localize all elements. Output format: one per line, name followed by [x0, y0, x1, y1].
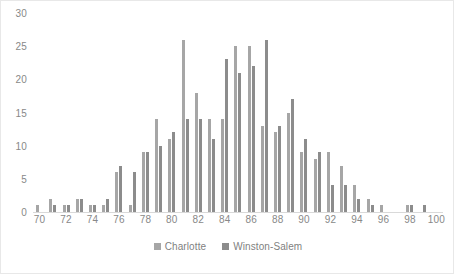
- bar-group: [33, 13, 46, 212]
- x-axis-tick-label: 78: [140, 214, 152, 225]
- bar: [327, 152, 330, 212]
- x-axis-tick-label: 82: [193, 214, 205, 225]
- legend-item[interactable]: Charlotte: [154, 241, 206, 252]
- chart-legend: CharlotteWinston-Salem: [1, 241, 454, 252]
- x-axis-line: [33, 212, 443, 213]
- bar: [53, 205, 56, 212]
- bar: [287, 113, 290, 213]
- bar: [234, 46, 237, 212]
- bar: [238, 73, 241, 212]
- legend-item[interactable]: Winston-Salem: [222, 241, 302, 252]
- bar: [142, 152, 145, 212]
- x-axis-tick-labels: 707274767880828486889092949698100: [33, 214, 443, 230]
- y-axis-tick-labels: 051015202530: [1, 1, 27, 212]
- bar: [291, 99, 294, 212]
- bar-group: [297, 13, 310, 212]
- legend-swatch-icon: [222, 243, 229, 250]
- bar: [278, 126, 281, 212]
- bar-group: [99, 13, 112, 212]
- bar: [423, 205, 426, 212]
- bar: [133, 172, 136, 212]
- bar-group: [311, 13, 324, 212]
- x-axis-tick-label: 88: [272, 214, 284, 225]
- x-axis-tick-label: 98: [404, 214, 416, 225]
- bar: [410, 205, 413, 212]
- y-axis-tick-label: 20: [15, 74, 27, 85]
- bar: [304, 139, 307, 212]
- bar-group: [112, 13, 125, 212]
- x-axis-tick-label: 74: [87, 214, 99, 225]
- bar: [195, 93, 198, 212]
- x-axis-tick-label: 94: [351, 214, 363, 225]
- bar-group: [192, 13, 205, 212]
- bar: [357, 199, 360, 212]
- bar: [314, 159, 317, 212]
- bar-group: [390, 13, 403, 212]
- y-axis-tick-label: 10: [15, 140, 27, 151]
- bar-group: [165, 13, 178, 212]
- bar: [172, 132, 175, 212]
- bar: [367, 199, 370, 212]
- bar-group: [59, 13, 72, 212]
- bar: [67, 205, 70, 212]
- bar: [168, 139, 171, 212]
- x-axis-tick-label: 72: [60, 214, 72, 225]
- bar: [76, 199, 79, 212]
- x-axis-tick-label: 84: [219, 214, 231, 225]
- bar: [371, 205, 374, 212]
- x-axis-tick-label: 86: [245, 214, 257, 225]
- bar-group: [86, 13, 99, 212]
- bar: [380, 205, 383, 212]
- x-axis-tick-label: 70: [34, 214, 46, 225]
- bar-group: [231, 13, 244, 212]
- bar: [265, 40, 268, 212]
- bar: [182, 40, 185, 212]
- bar-group: [245, 13, 258, 212]
- x-axis-tick-label: 76: [113, 214, 125, 225]
- bar-group: [363, 13, 376, 212]
- y-axis-tick-label: 5: [21, 173, 27, 184]
- bar: [186, 119, 189, 212]
- bars-layer: [33, 13, 443, 212]
- legend-swatch-icon: [154, 243, 161, 250]
- bar: [159, 146, 162, 212]
- bar-group: [350, 13, 363, 212]
- bar-group: [337, 13, 350, 212]
- bar: [353, 185, 356, 212]
- bar-group: [73, 13, 86, 212]
- bar: [212, 139, 215, 212]
- bar: [155, 119, 158, 212]
- bar: [80, 199, 83, 212]
- bar: [406, 205, 409, 212]
- bar-group: [377, 13, 390, 212]
- bar-group: [258, 13, 271, 212]
- bar: [248, 46, 251, 212]
- bar-group: [178, 13, 191, 212]
- x-axis-tick-label: 90: [298, 214, 310, 225]
- bar: [300, 152, 303, 212]
- bar: [89, 205, 92, 212]
- legend-item-label: Charlotte: [165, 241, 206, 252]
- y-axis-tick-label: 15: [15, 107, 27, 118]
- bar-group: [324, 13, 337, 212]
- bar: [208, 119, 211, 212]
- bar-group: [205, 13, 218, 212]
- y-axis-tick-label: 30: [15, 8, 27, 19]
- bar-group: [152, 13, 165, 212]
- bar-group: [416, 13, 429, 212]
- x-axis-tick-label: 80: [166, 214, 178, 225]
- bar: [318, 152, 321, 212]
- bar: [340, 166, 343, 212]
- bar-group: [271, 13, 284, 212]
- plot-area: [33, 13, 443, 212]
- legend-item-label: Winston-Salem: [233, 241, 302, 252]
- bar-chart: 051015202530 707274767880828486889092949…: [0, 0, 454, 274]
- bar: [221, 119, 224, 212]
- bar: [261, 126, 264, 212]
- bar: [199, 119, 202, 212]
- bar: [129, 205, 132, 212]
- bar: [119, 166, 122, 212]
- bar: [225, 59, 228, 212]
- bar: [252, 66, 255, 212]
- bar: [274, 132, 277, 212]
